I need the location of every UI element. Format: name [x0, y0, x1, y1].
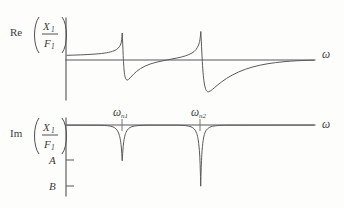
real-part-ylabel-denominator-sub: 1: [51, 42, 55, 51]
frf-figure: Re X 1 F 1 ω Im X 1 F 1: [0, 0, 344, 208]
freq-label-wn2-omega: ω: [191, 106, 199, 118]
imaginary-part-ylabel-function: Im: [10, 127, 23, 139]
panel-real-part: Re X 1 F 1 ω: [10, 17, 330, 100]
real-part-x-axis-label: ω: [322, 48, 330, 60]
freq-label-wn2-sub: n2: [199, 112, 207, 120]
freq-label-wn1-sub: n1: [121, 112, 128, 120]
real-part-ylabel-function: Re: [10, 26, 22, 38]
imaginary-part-curve: [67, 125, 314, 186]
real-part-ylabel-denominator: F: [43, 37, 51, 49]
imaginary-part-paren-left-icon: [35, 118, 40, 154]
imaginary-part-ylabel-denominator: F: [43, 138, 51, 150]
imaginary-part-ytick-label-a: A: [48, 154, 56, 166]
real-part-ylabel-numerator: X: [42, 20, 51, 32]
real-part-ylabel: Re X 1 F 1: [10, 17, 67, 53]
imaginary-part-x-axis-label: ω: [322, 118, 330, 130]
imaginary-part-freq-label-wn2: ω n2: [191, 106, 207, 120]
real-part-curve: [67, 32, 314, 92]
imaginary-part-ytick-label-b: B: [49, 180, 56, 192]
imaginary-part-ylabel-numerator: X: [42, 121, 51, 133]
real-part-ylabel-numerator-sub: 1: [51, 25, 55, 34]
imaginary-part-ylabel-denominator-sub: 1: [51, 143, 55, 152]
frf-svg: Re X 1 F 1 ω Im X 1 F 1: [0, 0, 344, 208]
real-part-paren-left-icon: [35, 17, 40, 53]
panel-imaginary-part: Im X 1 F 1 ω A B ω n1 ω n2: [10, 106, 330, 196]
imaginary-part-freq-label-wn1: ω n1: [113, 106, 128, 120]
imaginary-part-ylabel-numerator-sub: 1: [51, 126, 55, 135]
imaginary-part-ylabel: Im X 1 F 1: [10, 118, 67, 154]
freq-label-wn1-omega: ω: [113, 106, 121, 118]
